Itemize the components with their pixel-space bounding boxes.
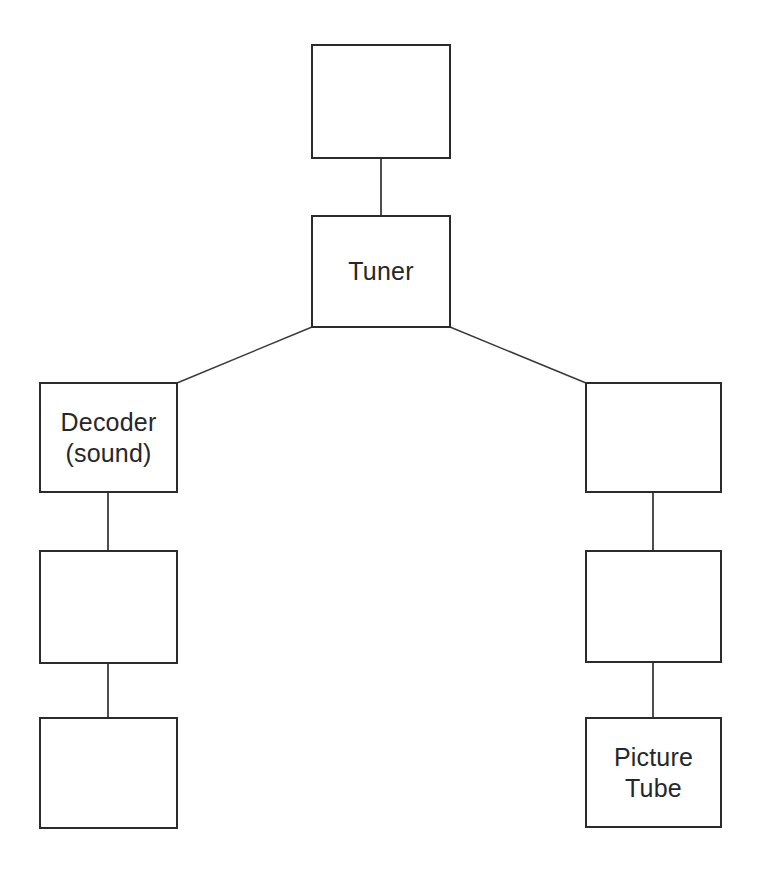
connector-tuner-to-right-top [450, 327, 586, 383]
node-left-middle[interactable] [40, 551, 177, 663]
node-decoder-sound[interactable]: Decoder (sound) [40, 383, 177, 492]
node-tuner-label: Tuner [348, 256, 413, 287]
node-right-middle[interactable] [586, 551, 721, 662]
block-diagram: p g p [0, 0, 757, 870]
node-left-bottom[interactable] [40, 718, 177, 828]
node-tuner[interactable]: Tuner [312, 216, 450, 327]
connector-tuner-to-decoder [177, 327, 312, 383]
node-right-top[interactable] [586, 383, 721, 492]
node-antenna[interactable] [312, 45, 450, 158]
node-decoder-sound-label: Decoder (sound) [61, 407, 157, 469]
node-picture-tube[interactable]: Picture Tube [586, 718, 721, 827]
node-picture-tube-label: Picture Tube [614, 742, 693, 804]
